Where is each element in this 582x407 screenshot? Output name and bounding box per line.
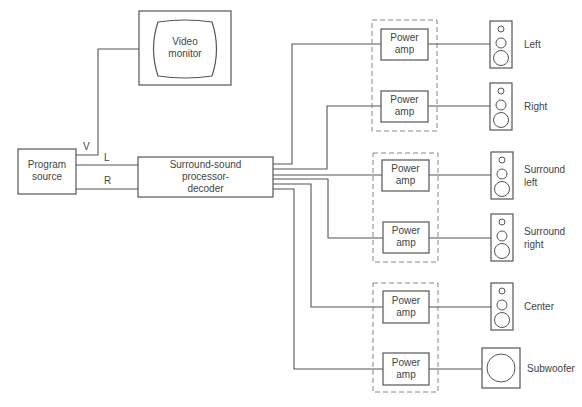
speaker-surround-left-icon (491, 152, 513, 199)
speaker-center-icon (491, 283, 513, 330)
video-wire (76, 49, 139, 155)
subwoofer-icon (482, 348, 520, 388)
subwoofer-label: Subwoofer (527, 362, 575, 375)
power-amp-6-label: Power amp (383, 357, 429, 381)
video-monitor-label: Video monitor (150, 36, 220, 60)
power-amp-4-label: Power amp (383, 225, 429, 249)
signal-label-video: V (83, 141, 90, 152)
wire-surround-right-channel (273, 179, 383, 238)
power-amp-3-label: Power amp (382, 163, 429, 187)
speaker-right-icon (490, 83, 512, 130)
power-amp-5-label: Power amp (383, 295, 429, 319)
speaker-right-label: Right (524, 100, 547, 113)
power-amp-1-label: Power amp (381, 32, 428, 56)
speaker-surround-right-icon (491, 214, 513, 261)
speaker-surround-left-label: Surround left (524, 163, 565, 189)
signal-label-left: L (104, 152, 110, 163)
processor-label: Surround-sound processor- decoder (138, 159, 273, 195)
power-amp-2-label: Power amp (381, 94, 428, 118)
signal-label-right: R (104, 175, 111, 186)
diagram-canvas (0, 0, 582, 407)
speaker-left-icon (490, 21, 512, 68)
speaker-center-label: Center (524, 300, 554, 313)
speaker-surround-right-label: Surround right (524, 225, 565, 251)
program-source-label: Program source (18, 159, 76, 183)
wire-right-channel (273, 106, 381, 169)
speaker-left-label: Left (524, 38, 541, 51)
